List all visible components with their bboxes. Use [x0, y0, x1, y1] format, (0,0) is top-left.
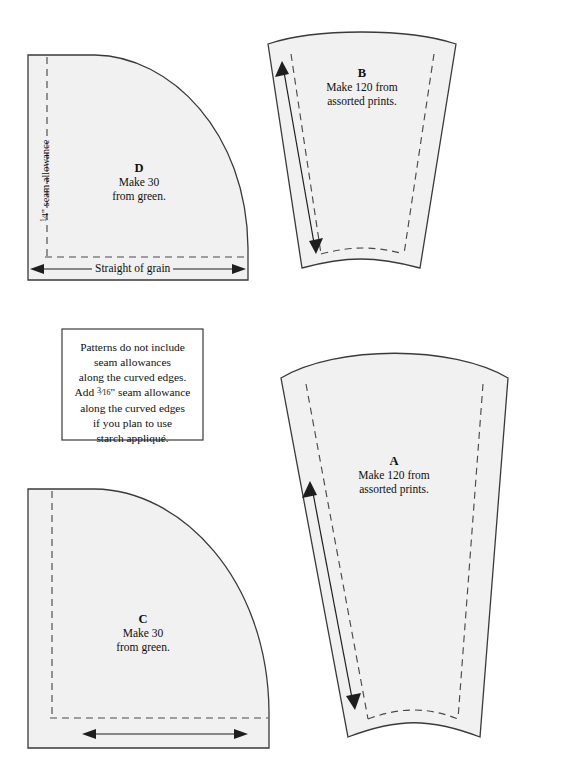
seam-allowance-suffix: " seam allowance [40, 140, 51, 214]
note-line-4-post: " seam allowance [110, 386, 190, 398]
pattern-sheet: D Make 30 from green. 1⁄4" seam allowanc… [0, 0, 568, 761]
note-line-7: starch appliqué. [62, 431, 203, 446]
piece-d-grain-label: Straight of grain [92, 262, 173, 274]
piece-d-line2: from green. [74, 190, 204, 204]
note-line-2: seam allowances [62, 355, 203, 370]
piece-b-line2: assorted prints. [302, 95, 422, 109]
seam-allowance-fraction: 1⁄4 [39, 213, 50, 222]
note-line-4: Add 3⁄16" seam allowance [62, 385, 203, 400]
note-line-5: along the curved edges [62, 401, 203, 416]
piece-d-letter: D [74, 161, 204, 176]
piece-a-letter: A [334, 454, 454, 469]
piece-b-line1: Make 120 from [302, 81, 422, 95]
piece-c-line1: Make 30 [78, 627, 208, 641]
note-line-6: if you plan to use [62, 416, 203, 431]
note-line-1: Patterns do not include [62, 340, 203, 355]
piece-b-letter: B [302, 66, 422, 81]
note-line-3: along the curved edges. [62, 370, 203, 385]
piece-c-letter: C [78, 612, 208, 627]
piece-a-outline [281, 353, 508, 737]
piece-a-line1: Make 120 from [334, 469, 454, 483]
seam-allowance-denominator: 4 [41, 213, 50, 217]
note-fraction: 3⁄16 [97, 386, 110, 399]
piece-a-group [281, 353, 508, 737]
note-line-4-pre: Add [75, 386, 97, 398]
piece-c-line2: from green. [78, 641, 208, 655]
piece-d-seam-allowance-label: 1⁄4" seam allowance [39, 140, 51, 222]
piece-a-line2: assorted prints. [334, 483, 454, 497]
piece-d-line1: Make 30 [74, 176, 204, 190]
note-fraction-numerator: 3 [97, 386, 101, 395]
note-text-block: Patterns do not include seam allowances … [62, 340, 203, 446]
seam-allowance-numerator: 1 [39, 218, 48, 222]
